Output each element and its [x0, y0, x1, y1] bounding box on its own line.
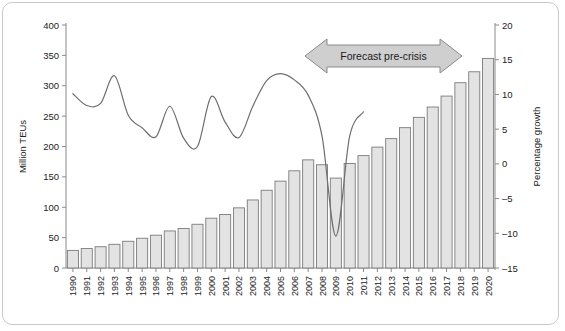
y-axis-left-tick-label: 200 — [43, 141, 59, 152]
x-axis-tick-label: 1999 — [193, 276, 203, 296]
bar — [427, 107, 438, 268]
x-axis-tick-label: 2002 — [234, 276, 244, 296]
bar — [247, 200, 258, 268]
y-axis-left-tick-label: 100 — [43, 202, 59, 213]
bar — [372, 147, 383, 268]
bar — [233, 208, 244, 268]
x-axis-tick-label: 1991 — [82, 276, 92, 296]
y-axis-right-tick-label: 5 — [502, 124, 507, 135]
bar — [441, 96, 452, 268]
x-axis-tick-label: 2020 — [484, 276, 494, 296]
x-axis-tick-label: 2003 — [248, 276, 258, 296]
y-axis-left-tick-label: 250 — [43, 111, 59, 122]
x-axis-tick-label: 2018 — [456, 276, 466, 296]
y-axis-right-tick-label: –10 — [502, 228, 518, 239]
x-axis-tick-label: 1998 — [179, 276, 189, 296]
x-axis-tick-label: 2007 — [304, 276, 314, 296]
x-axis-tick-label: 2014 — [401, 276, 411, 296]
y-axis-right-tick-label: 20 — [502, 20, 513, 31]
x-axis-tick-label: 1990 — [68, 276, 78, 296]
bar — [220, 215, 231, 268]
bar — [206, 218, 217, 268]
bar — [316, 165, 327, 268]
bar — [150, 235, 161, 268]
y-axis-left-tick-label: 0 — [54, 263, 59, 274]
y-axis-left-tick-label: 300 — [43, 80, 59, 91]
x-axis-tick-label: 2019 — [470, 276, 480, 296]
bar — [289, 171, 300, 268]
bar — [81, 249, 92, 268]
bar — [469, 72, 480, 268]
y-axis-left-tick-label: 400 — [43, 20, 59, 31]
y-axis-left-tick-label: 350 — [43, 50, 59, 61]
x-axis-tick-label: 2015 — [414, 276, 424, 296]
y-axis-right-title: Percentage growth — [531, 107, 542, 187]
x-axis-tick-label: 2010 — [345, 276, 355, 296]
y-axis-left-tick-label: 50 — [48, 232, 59, 243]
chart-figure: 050100150200250300350400Million TEUs–15–… — [0, 0, 565, 331]
y-axis-right-tick-label: 15 — [502, 54, 513, 65]
x-axis-tick-label: 1995 — [138, 276, 148, 296]
bar — [192, 224, 203, 268]
y-axis-left-title: Million TEUs — [17, 120, 28, 173]
x-axis-tick-label: 1993 — [110, 276, 120, 296]
bar — [178, 229, 189, 268]
x-axis-tick-label: 1994 — [124, 276, 134, 296]
bar — [109, 244, 120, 268]
x-axis-tick-label: 2008 — [318, 276, 328, 296]
x-axis-tick-label: 2017 — [442, 276, 452, 296]
bar — [413, 117, 424, 268]
bar — [123, 241, 134, 268]
bar — [275, 181, 286, 268]
y-axis-right-tick-label: –5 — [502, 193, 513, 204]
y-axis-right-tick-label: 0 — [502, 158, 507, 169]
x-axis-tick-label: 2016 — [428, 276, 438, 296]
bar — [358, 156, 369, 268]
bar — [483, 58, 494, 268]
bar — [344, 164, 355, 268]
bar — [303, 160, 314, 268]
bar — [67, 250, 78, 268]
bar — [455, 83, 466, 268]
bar — [261, 190, 272, 268]
x-axis-tick-label: 2004 — [262, 276, 272, 296]
x-axis-tick-label: 1992 — [96, 276, 106, 296]
bar — [400, 128, 411, 268]
x-axis-tick-label: 2005 — [276, 276, 286, 296]
x-axis-tick-label: 2009 — [331, 276, 341, 296]
chart-canvas: 050100150200250300350400Million TEUs–15–… — [0, 0, 565, 331]
x-axis-tick-label: 1996 — [151, 276, 161, 296]
y-axis-right-tick-label: –15 — [502, 263, 518, 274]
bar — [95, 247, 106, 268]
bar — [386, 139, 397, 268]
x-axis-tick-label: 2011 — [359, 276, 369, 295]
y-axis-left-tick-label: 150 — [43, 171, 59, 182]
y-axis-right-tick-label: 10 — [502, 89, 513, 100]
bar — [164, 231, 175, 268]
x-axis-tick-label: 2000 — [207, 276, 217, 296]
forecast-banner-label: Forecast pre-crisis — [340, 50, 426, 62]
x-axis-tick-label: 2012 — [373, 276, 383, 296]
x-axis-tick-label: 2013 — [387, 276, 397, 296]
bar — [137, 238, 148, 268]
x-axis-tick-label: 2001 — [221, 276, 231, 296]
x-axis-tick-label: 2006 — [290, 276, 300, 296]
x-axis-tick-label: 1997 — [165, 276, 175, 296]
